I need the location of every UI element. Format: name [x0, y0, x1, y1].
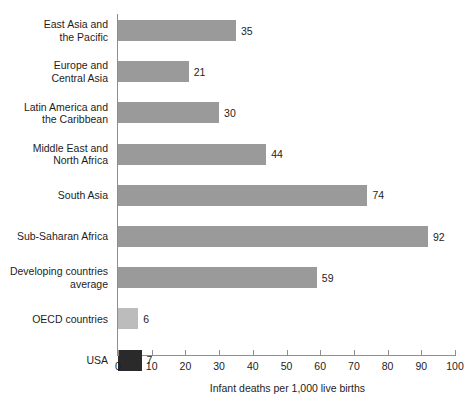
bar	[118, 61, 189, 82]
x-axis-tick-label: 0	[115, 360, 121, 373]
x-axis-tick	[287, 350, 288, 356]
x-axis-title: Infant deaths per 1,000 live births	[118, 382, 457, 395]
bar-category-label: South Asia	[0, 189, 108, 201]
x-axis-tick	[354, 350, 355, 356]
x-axis-tick	[421, 350, 422, 356]
x-axis-tick	[219, 350, 220, 356]
x-axis-tick-label: 50	[281, 360, 293, 373]
bar-value-label: 21	[194, 66, 206, 78]
bar-value-label: 74	[372, 189, 384, 201]
x-axis-tick-label: 40	[247, 360, 259, 373]
bar-category-label: USA	[0, 354, 108, 366]
bar	[118, 102, 219, 123]
x-axis-tick-label: 30	[213, 360, 225, 373]
x-axis-tick-label: 20	[180, 360, 192, 373]
x-axis-tick-label: 60	[314, 360, 326, 373]
bar-row: OECD countries6	[0, 308, 472, 329]
bar-category-label: East Asia and the Pacific	[0, 18, 108, 43]
x-axis-tick-label: 80	[382, 360, 394, 373]
bar-row: USA7	[0, 350, 472, 371]
bar-category-label: Sub-Saharan Africa	[0, 230, 108, 242]
bar-row: Developing countries average59	[0, 267, 472, 288]
x-axis-tick-label: 90	[415, 360, 427, 373]
bar	[118, 226, 428, 247]
bar-row: South Asia74	[0, 185, 472, 206]
x-axis-tick	[152, 350, 153, 356]
bar-row: Latin America and the Caribbean30	[0, 102, 472, 123]
x-axis-tick	[320, 350, 321, 356]
x-axis-tick-label: 70	[348, 360, 360, 373]
infant-mortality-bar-chart: East Asia and the Pacific35Europe and Ce…	[0, 0, 472, 410]
plot-area: East Asia and the Pacific35Europe and Ce…	[0, 0, 472, 410]
x-axis-tick	[388, 350, 389, 356]
bar	[118, 267, 317, 288]
bar-row: East Asia and the Pacific35	[0, 20, 472, 41]
bar-category-label: Middle East and North Africa	[0, 142, 108, 167]
bar-value-label: 30	[224, 107, 236, 119]
bar-row: Middle East and North Africa44	[0, 144, 472, 165]
x-axis-tick	[118, 350, 119, 356]
bar-value-label: 35	[241, 25, 253, 37]
bar	[118, 20, 236, 41]
x-axis-tick-label: 10	[146, 360, 158, 373]
x-axis-tick	[185, 350, 186, 356]
bar	[118, 350, 142, 371]
bar-row: Europe and Central Asia21	[0, 61, 472, 82]
bar-value-label: 6	[143, 313, 149, 325]
x-axis-tick-label: 100	[446, 360, 464, 373]
bar-category-label: OECD countries	[0, 313, 108, 325]
bar-category-label: Developing countries average	[0, 265, 108, 290]
bar-value-label: 92	[433, 231, 445, 243]
bar	[118, 185, 367, 206]
bar-value-label: 44	[271, 148, 283, 160]
bar	[118, 144, 266, 165]
x-axis-tick	[455, 350, 456, 356]
bar	[118, 308, 138, 329]
bar-row: Sub-Saharan Africa92	[0, 226, 472, 247]
x-axis-tick	[253, 350, 254, 356]
bar-value-label: 59	[322, 272, 334, 284]
bar-category-label: Europe and Central Asia	[0, 59, 108, 84]
bar-category-label: Latin America and the Caribbean	[0, 101, 108, 126]
